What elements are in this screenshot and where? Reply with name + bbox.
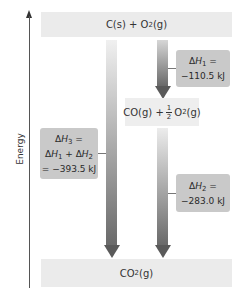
state-label: (g) [139,268,153,279]
enthalpy-label: ΔH3 = [40,133,98,148]
arrow-dh1-shaft [157,40,168,86]
fraction-denominator: 2 [167,113,171,121]
level-products: CO2(g) [41,259,232,287]
arrow-dh2-shaft [157,128,168,245]
energy-axis-label: Energy [15,129,29,169]
oxygen-symbol: O [174,107,182,118]
state-label: (g) [187,107,201,118]
enthalpy-value: −283.0 kJ [176,195,230,207]
enthalpy-box-dh1: ΔH1 = −110.5 kJ [176,50,230,87]
enthalpy-box-dh3: ΔH3 = ΔH1 + ΔH2 = −393.5 kJ [40,128,98,179]
enthalpy-value: −110.5 kJ [176,70,230,82]
enthalpy-label: ΔH2 = [176,180,230,195]
fraction-one-half: 1 2 [166,104,172,121]
enthalpy-box-dh2: ΔH2 = −283.0 kJ [176,174,230,212]
level-products-text: CO [120,268,135,279]
energy-axis [29,16,30,288]
connector-line [168,193,176,194]
level-intermediate: CO(g) + 1 2 O2(g) [125,98,199,126]
connector-line [168,68,176,69]
level-reactants-text: C(s) + O [106,19,149,30]
state-label: (g) [153,19,167,30]
arrow-dh3-shaft [106,40,117,245]
intermediate-text: CO(g) + [123,107,164,118]
enthalpy-sum: ΔH1 + ΔH2 [40,148,98,163]
enthalpy-value: = −393.5 kJ [40,163,98,175]
connector-line [98,153,106,154]
level-reactants: C(s) + O2(g) [41,12,232,37]
arrow-down-icon [104,245,120,258]
enthalpy-label: ΔH1 = [176,55,230,70]
arrow-down-icon [155,245,171,258]
fraction-numerator: 1 [166,104,172,113]
